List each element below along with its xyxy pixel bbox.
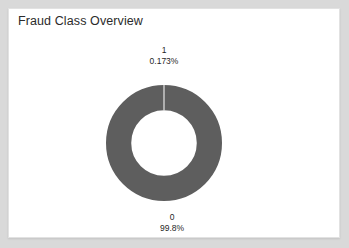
slice-label-1-name: 1 — [104, 45, 224, 56]
donut-chart-plot-area: 1 0.173% 0 99.8% — [9, 9, 339, 237]
donut-slice-0[interactable] — [119, 98, 210, 189]
slice-label-1-percent: 0.173% — [104, 56, 224, 67]
slice-label-1: 1 0.173% — [104, 45, 224, 66]
slice-label-0-name: 0 — [112, 212, 232, 223]
chart-frame: Fraud Class Overview 1 0.173% 0 99.8% — [0, 0, 349, 248]
slice-label-0: 0 99.8% — [112, 212, 232, 233]
slice-label-0-percent: 99.8% — [112, 223, 232, 234]
chart-card: Fraud Class Overview 1 0.173% 0 99.8% — [8, 8, 340, 238]
donut-chart-svg — [9, 9, 340, 238]
